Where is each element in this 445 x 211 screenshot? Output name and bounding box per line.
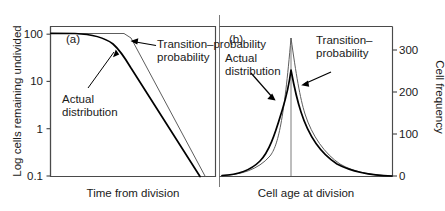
panel-b-actual-label-line1: Actual	[225, 52, 257, 64]
panel-a-transition-label-line2: probability	[157, 51, 210, 63]
panel-a-transition-label-line1: Transition–probability	[157, 38, 266, 50]
panel-a-ytick-label-1: 1	[37, 123, 43, 135]
panel-b-ytick-label-100: 100	[399, 128, 418, 140]
panel-a-actual-leader-line	[88, 52, 114, 88]
panel-b-y-axis-label: Cell frequency	[434, 60, 445, 134]
panel-a-ytick-label-100: 100	[24, 28, 43, 40]
panel-a-tag: (a)	[66, 33, 80, 45]
panel-b-annotation-actual-distribution: Actual distribution	[225, 52, 281, 101]
panel-b-transition-label-line1: Transition–	[316, 34, 373, 46]
panel-a-actual-label-line1: Actual	[62, 93, 94, 105]
panel-b-tag: (b)	[229, 33, 243, 45]
panel-a-actual-label-line2: distribution	[62, 106, 118, 118]
panel-b-actual-label-line2: distribution	[225, 65, 281, 77]
panel-b-ytick-label-200: 200	[399, 86, 418, 98]
panel-b-annotation-transition-probability: Transition– probability	[301, 34, 373, 87]
panel-b-transition-label-line2: probability	[316, 47, 369, 59]
panel-a-x-axis-label: Time from division	[87, 187, 180, 199]
panel-b-ytick-label-300: 300	[399, 44, 418, 56]
panel-a-y-axis-label: Log cells remaining undivided	[11, 25, 23, 177]
panel-b-ytick-label-0: 0	[399, 170, 405, 182]
figure-container: 100 10 1 0.1 Log cells remaining undivid…	[0, 0, 445, 211]
panel-a: 100 10 1 0.1 Log cells remaining undivid…	[11, 25, 266, 182]
panel-b-transition-arrow-head	[301, 81, 309, 87]
panel-a-annotation-actual-distribution: Actual distribution	[62, 50, 119, 119]
panel-b-x-axis-label: Cell age at division	[258, 187, 355, 199]
scientific-figure: 100 10 1 0.1 Log cells remaining undivid…	[0, 0, 445, 211]
panel-a-ytick-label-0-1: 0.1	[27, 170, 43, 182]
panel-a-ytick-label-10: 10	[30, 75, 43, 87]
panel-b-actual-arrow-head	[267, 94, 275, 101]
